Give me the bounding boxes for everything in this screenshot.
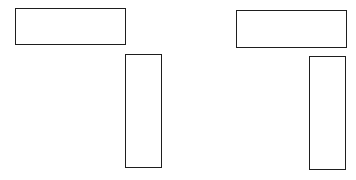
diagram-canvas [0,0,356,180]
left-horizontal-rect [15,8,126,45]
right-horizontal-rect [236,10,347,48]
right-vertical-rect [309,56,346,170]
left-vertical-rect [125,54,162,168]
